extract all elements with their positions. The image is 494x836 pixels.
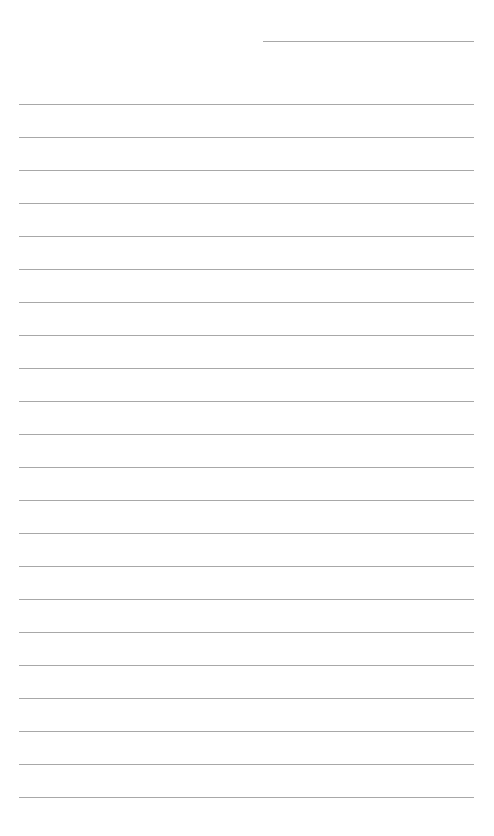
ruled-line[interactable] (19, 665, 474, 666)
ruled-line[interactable] (19, 335, 474, 336)
ruled-line[interactable] (19, 764, 474, 765)
ruled-line[interactable] (19, 302, 474, 303)
ruled-line[interactable] (19, 269, 474, 270)
ruled-line[interactable] (19, 500, 474, 501)
ruled-line[interactable] (19, 533, 474, 534)
ruled-line[interactable] (19, 566, 474, 567)
ruled-line[interactable] (19, 104, 474, 105)
ruled-line[interactable] (19, 797, 474, 798)
ruled-line[interactable] (19, 467, 474, 468)
ruled-line[interactable] (19, 236, 474, 237)
ruled-line[interactable] (19, 401, 474, 402)
ruled-line[interactable] (19, 599, 474, 600)
ruled-line[interactable] (19, 137, 474, 138)
ruled-line[interactable] (19, 731, 474, 732)
ruled-line[interactable] (19, 632, 474, 633)
header-blank-line[interactable] (263, 41, 474, 42)
ruled-line[interactable] (19, 368, 474, 369)
ruled-line[interactable] (19, 170, 474, 171)
ruled-line[interactable] (19, 434, 474, 435)
ruled-line[interactable] (19, 698, 474, 699)
ruled-line[interactable] (19, 203, 474, 204)
